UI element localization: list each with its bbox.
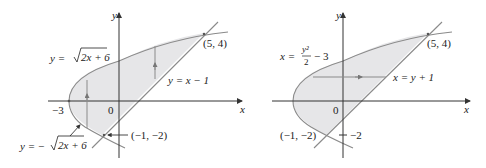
svg-text:2x + 6: 2x + 6 [81, 51, 110, 63]
left-neg3-label: −3 [52, 104, 64, 116]
left-pointer-arrow-icon [70, 125, 80, 136]
right-shaded-region [293, 33, 428, 135]
left-origin-label: 0 [108, 104, 114, 116]
left-lower-curve-label: y = − 2x + 6 [19, 136, 87, 152]
right-point-lower-label: (−1, −2) [280, 129, 317, 142]
right-point-upper-label: (5, 4) [427, 37, 451, 50]
right-point-5-4-dot [427, 33, 430, 36]
left-point-lower-label: (−1, −2) [131, 129, 168, 142]
left-point-neg1-neg2-dot [103, 134, 106, 137]
left-upper-curve-label: y = 2x + 6 [49, 48, 110, 64]
svg-text:2x + 6: 2x + 6 [58, 139, 87, 151]
svg-text:y = −: y = − [19, 140, 45, 152]
left-line-label: y = x − 1 [167, 74, 209, 86]
svg-text:2: 2 [304, 57, 309, 67]
right-neg2-label: −2 [350, 129, 362, 141]
left-graph: y x 0 −3 (5, 4) (−1, −2) y = x − 1 y = 2… [19, 9, 245, 158]
svg-text:y²: y² [301, 44, 309, 54]
left-point-5-4-dot [203, 33, 206, 36]
right-x-axis-label: x [463, 103, 469, 115]
right-line-label: x = y + 1 [392, 71, 434, 83]
right-origin-label: 0 [333, 104, 339, 116]
right-graph: y x 0 −2 (5, 4) (−1, −2) x = y + 1 x = y… [272, 9, 470, 158]
svg-text:x =: x = [279, 50, 295, 62]
right-y-axis-label: y [335, 9, 341, 21]
diagram-canvas: y x 0 −3 (5, 4) (−1, −2) y = x − 1 y = 2… [0, 0, 486, 168]
left-y-axis-label: y [111, 9, 117, 21]
svg-text:y =: y = [49, 52, 65, 64]
left-point-upper-label: (5, 4) [203, 37, 227, 50]
left-x-axis-label: x [239, 103, 245, 115]
right-curve-label: x = y² 2 − 3 [279, 44, 329, 67]
svg-text:− 3: − 3 [314, 50, 329, 62]
left-point-neg3-dot [68, 100, 71, 103]
